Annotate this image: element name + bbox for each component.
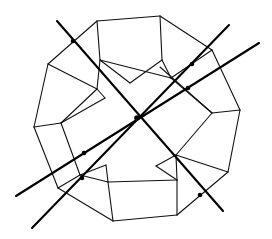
edge-A6-A7: [108, 180, 177, 182]
edge-O4-A4: [212, 110, 240, 113]
axis-3fold-upper-point: [190, 62, 195, 67]
edge-O6-O7: [113, 215, 177, 221]
edge-O4-O5: [228, 110, 240, 172]
edge-A6-B4: [156, 166, 177, 180]
axis-3fold-lower-point: [80, 176, 85, 181]
edge-O1-O2: [97, 16, 160, 21]
axis-5fold-upper-point: [186, 86, 191, 91]
edge-A4-A5: [176, 113, 212, 155]
edge-A10-B3: [97, 89, 105, 98]
edge-A5-B4: [156, 155, 176, 166]
edge-O8-O9: [34, 127, 58, 188]
axis-points: [71, 39, 203, 198]
edge-O1-A1: [97, 21, 100, 60]
edge-O3-O4: [212, 50, 240, 110]
edge-O7-A7: [108, 182, 113, 221]
edge-A2-B1: [130, 60, 162, 83]
axis-2fold-upper-point: [71, 39, 76, 44]
axis-5fold-lower-point: [82, 151, 87, 156]
edge-O10-A10: [48, 64, 97, 89]
dodecahedron-diagram: [0, 0, 272, 239]
edge-A1-A3: [100, 60, 171, 78]
axis-2fold-lower-point: [198, 193, 203, 198]
axis-3fold: [32, 25, 229, 228]
edge-O9-A9: [34, 123, 61, 127]
center-point: [134, 115, 140, 121]
edge-A10-A1: [97, 60, 100, 89]
edge-O2-A2: [160, 16, 162, 60]
edge-O2-O3: [160, 16, 212, 50]
edge-O5-A5: [176, 155, 228, 172]
edge-A7-B2: [106, 165, 108, 182]
edge-O9-O10: [34, 64, 48, 127]
edge-A8-A9: [61, 123, 80, 175]
